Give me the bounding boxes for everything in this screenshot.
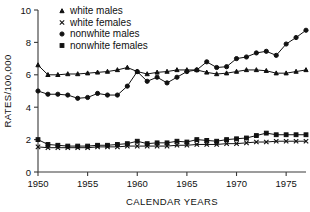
x-axis-title: CALENDAR YEARS [126, 196, 218, 207]
line-chart: 0246810195019551960196519701975CALENDAR … [0, 0, 310, 212]
data-point-circle [185, 69, 189, 73]
data-point-triangle [284, 71, 288, 75]
data-point-square [66, 144, 70, 148]
data-point-circle [66, 93, 70, 97]
data-point-triangle [115, 68, 119, 72]
data-point-triangle [294, 69, 298, 73]
data-point-square [245, 136, 249, 140]
chart-container: 0246810195019551960196519701975CALENDAR … [0, 0, 310, 212]
legend-label-2: nonwhite males [70, 28, 139, 39]
data-point-circle [76, 96, 80, 100]
data-point-triangle [175, 68, 179, 72]
data-point-triangle [264, 68, 268, 72]
data-point-triangle [86, 71, 90, 75]
data-point-circle [195, 68, 199, 72]
data-point-circle [254, 51, 258, 55]
data-point-circle [284, 42, 288, 46]
legend-item-2: nonwhite males [60, 28, 140, 39]
data-point-square [175, 139, 179, 143]
data-point-circle [234, 57, 238, 61]
legend-item-1: white females [60, 17, 131, 28]
data-point-triangle [56, 73, 60, 77]
data-point-circle [115, 93, 119, 97]
y-tick-label-2: 4 [26, 102, 31, 113]
data-point-square [106, 143, 110, 147]
data-point-triangle [165, 69, 169, 73]
data-point-triangle [76, 72, 80, 76]
data-point-circle [165, 81, 169, 85]
x-tick-label-4: 1970 [226, 178, 247, 189]
data-point-square [145, 142, 149, 146]
data-point-triangle [304, 68, 308, 72]
data-point-triangle [205, 70, 209, 74]
data-point-square [36, 138, 40, 142]
data-point-x [60, 20, 64, 24]
data-point-circle [36, 89, 40, 93]
data-point-triangle [234, 69, 238, 73]
data-point-square [155, 141, 159, 145]
data-point-circle [294, 35, 298, 39]
data-point-triangle [215, 72, 219, 76]
x-tick-label-2: 1960 [127, 178, 148, 189]
data-point-circle [155, 75, 159, 79]
data-point-circle [60, 32, 64, 36]
data-point-square [235, 137, 239, 141]
data-point-circle [145, 79, 149, 83]
data-point-circle [264, 49, 268, 53]
data-point-triangle [66, 72, 70, 76]
data-point-circle [274, 53, 278, 57]
data-point-square [116, 143, 120, 147]
x-tick-label-3: 1965 [176, 178, 197, 189]
data-point-square [274, 133, 278, 137]
data-point-circle [86, 95, 90, 99]
data-point-square [46, 143, 50, 147]
data-point-square [294, 133, 298, 137]
series-white-males [36, 63, 308, 77]
data-point-circle [244, 55, 248, 59]
legend-item-3: nonwhite females [60, 40, 148, 51]
legend: white maleswhite femalesnonwhite malesno… [60, 5, 148, 51]
data-point-triangle [155, 70, 159, 74]
data-point-square [225, 138, 229, 142]
data-point-circle [56, 92, 60, 96]
data-point-square [165, 141, 169, 145]
legend-label-3: nonwhite females [70, 40, 148, 51]
data-point-triangle [125, 65, 129, 69]
y-axis-title: RATES/100,000 [2, 54, 13, 127]
x-tick-label-5: 1975 [276, 178, 297, 189]
data-point-circle [205, 60, 209, 64]
data-point-square [264, 131, 268, 135]
data-point-triangle [274, 71, 278, 75]
data-point-circle [215, 65, 219, 69]
data-point-square [185, 140, 189, 144]
data-point-circle [125, 84, 129, 88]
data-point-circle [304, 28, 308, 32]
data-point-square [125, 142, 129, 146]
data-point-circle [175, 75, 179, 79]
data-point-square [195, 138, 199, 142]
data-point-circle [46, 92, 50, 96]
data-point-circle [105, 93, 109, 97]
data-point-square [254, 134, 258, 138]
data-point-square [86, 144, 90, 148]
legend-label-0: white males [69, 5, 123, 16]
data-point-square [60, 44, 64, 48]
data-point-square [56, 143, 60, 147]
data-point-square [96, 143, 100, 147]
data-point-square [284, 133, 288, 137]
y-tick-label-0: 0 [26, 167, 31, 178]
data-point-triangle [36, 63, 40, 67]
y-tick-label-5: 10 [20, 5, 31, 16]
y-tick-label-3: 6 [26, 69, 31, 80]
data-point-triangle [60, 9, 64, 13]
data-point-square [76, 144, 80, 148]
x-tick-label-0: 1950 [27, 178, 48, 189]
data-point-triangle [105, 69, 109, 73]
data-point-circle [135, 69, 139, 73]
data-point-circle [224, 65, 228, 69]
legend-item-0: white males [60, 5, 123, 16]
data-point-triangle [254, 68, 258, 72]
data-point-circle [95, 91, 99, 95]
data-point-square [215, 139, 219, 143]
data-point-triangle [224, 71, 228, 75]
